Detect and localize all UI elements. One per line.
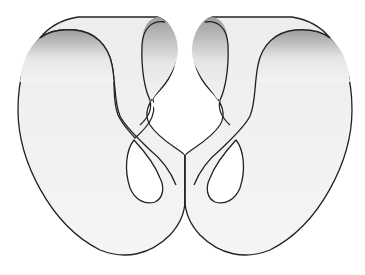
diagram-canvas: Twisted band surface with two figure-eig… bbox=[0, 0, 365, 275]
left-lobe bbox=[18, 17, 185, 255]
right-lobe bbox=[185, 17, 352, 255]
twisted-band-diagram bbox=[0, 0, 365, 275]
